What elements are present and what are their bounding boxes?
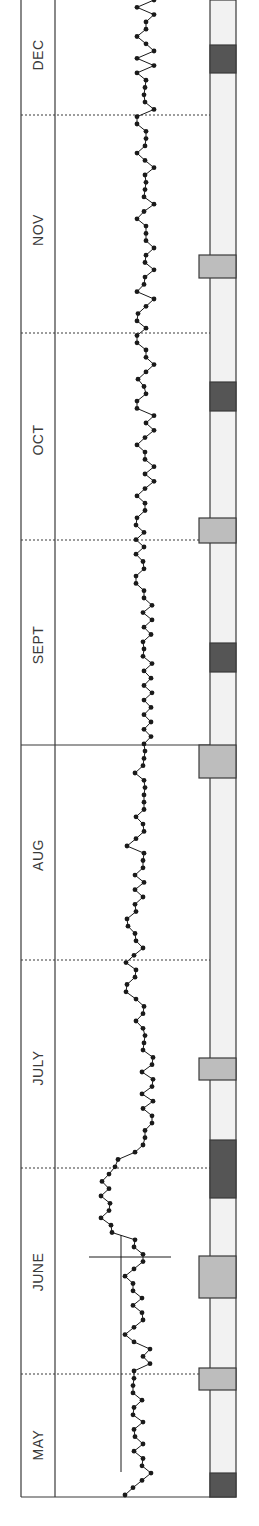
reading-dot <box>144 304 149 309</box>
reading-dot <box>135 71 140 76</box>
reading-dot <box>144 129 149 134</box>
reading-dot <box>135 114 140 119</box>
reading-dot <box>109 1223 114 1228</box>
reading-dot <box>152 362 157 367</box>
reading-dot <box>132 1340 137 1345</box>
month-label: MAY <box>30 1429 46 1460</box>
reading-dot <box>107 1186 112 1191</box>
reading-dot <box>123 1493 128 1498</box>
reading-dot <box>142 712 147 717</box>
reading-dot <box>143 144 148 149</box>
reading-dot <box>142 742 147 747</box>
reading-dot <box>124 960 129 965</box>
reading-dot <box>108 1201 113 1206</box>
reading-dot <box>135 34 140 39</box>
reading-dot <box>143 785 148 790</box>
reading-dot <box>142 1004 147 1009</box>
light-marker-block <box>199 518 236 543</box>
dark-marker-block <box>210 1140 236 1198</box>
reading-dot <box>142 566 147 571</box>
reading-dot <box>134 814 139 819</box>
reading-dot <box>141 1456 146 1461</box>
reading-dot <box>133 887 138 892</box>
reading-dot <box>141 610 146 615</box>
reading-dot <box>141 1442 146 1447</box>
reading-dot <box>141 1259 146 1264</box>
reading-dot <box>123 1332 128 1337</box>
reading-dot <box>135 151 140 156</box>
reading-dot <box>143 435 148 440</box>
reading-dot <box>135 515 140 520</box>
reading-dot <box>149 1471 154 1476</box>
reading-dot <box>142 209 147 214</box>
reading-dot <box>134 552 139 557</box>
reading-dot <box>133 931 138 936</box>
reading-dot <box>148 1347 153 1352</box>
reading-dot <box>141 763 146 768</box>
reading-dot <box>142 545 147 550</box>
reading-dot <box>132 1245 137 1250</box>
reading-dot <box>143 173 148 178</box>
reading-dot <box>141 865 146 870</box>
dark-marker-block <box>210 1473 236 1497</box>
reading-dot <box>142 384 147 389</box>
month-label: AUG <box>30 839 46 871</box>
reading-dot <box>142 625 147 630</box>
reading-dot <box>150 618 155 623</box>
reading-dot <box>144 180 149 185</box>
reading-dot <box>133 1237 138 1242</box>
reading-dot <box>142 282 147 287</box>
reading-dot <box>134 938 139 943</box>
reading-dot <box>142 1041 147 1046</box>
cycle-chart: MAYJUNEJULYAUGSEPTOCTNOVDEC <box>0 0 259 1526</box>
reading-dot <box>141 1318 146 1323</box>
reading-dot <box>152 428 157 433</box>
reading-dot <box>142 851 147 856</box>
reading-dot <box>141 822 146 827</box>
reading-dot <box>123 1274 128 1279</box>
reading-dot <box>140 1398 145 1403</box>
reading-dot <box>141 1026 146 1031</box>
reading-dot <box>149 705 154 710</box>
reading-dot <box>107 1172 112 1177</box>
reading-dot <box>133 975 138 980</box>
reading-dot <box>142 727 147 732</box>
light-marker-block <box>199 1058 236 1080</box>
reading-dot <box>143 501 148 506</box>
reading-dot <box>148 1361 153 1366</box>
reading-dot <box>125 917 130 922</box>
reading-dot <box>142 800 147 805</box>
reading-dot <box>132 953 137 958</box>
reading-dot <box>135 443 140 448</box>
reading-dot <box>134 574 139 579</box>
reading-dot <box>142 92 147 97</box>
light-marker-block <box>199 255 236 278</box>
reading-dot <box>107 1208 112 1213</box>
reading-dot <box>152 63 157 68</box>
reading-dot <box>142 793 147 798</box>
reading-dot <box>144 224 149 229</box>
reading-dot <box>151 1055 156 1060</box>
reading-dot <box>144 78 149 83</box>
month-label: NOV <box>30 214 46 246</box>
reading-dot <box>149 676 154 681</box>
reading-dot <box>151 1077 156 1082</box>
reading-dot <box>113 1164 118 1169</box>
reading-dot <box>144 348 149 353</box>
reading-dot <box>142 669 147 674</box>
reading-dot <box>140 1296 145 1301</box>
reading-dot <box>143 1033 148 1038</box>
reading-dot <box>133 1434 138 1439</box>
reading-dot <box>135 216 140 221</box>
reading-dot <box>144 238 149 243</box>
reading-dot <box>141 639 146 644</box>
reading-dot <box>143 508 148 513</box>
reading-dot <box>125 844 130 849</box>
dark-marker-block <box>210 45 236 73</box>
reading-dot <box>143 1135 148 1140</box>
right-indicator-strip <box>199 0 236 1497</box>
reading-dot <box>149 720 154 725</box>
reading-dot <box>134 523 139 528</box>
light-marker-block <box>199 1256 236 1298</box>
reading-dot <box>152 165 157 170</box>
